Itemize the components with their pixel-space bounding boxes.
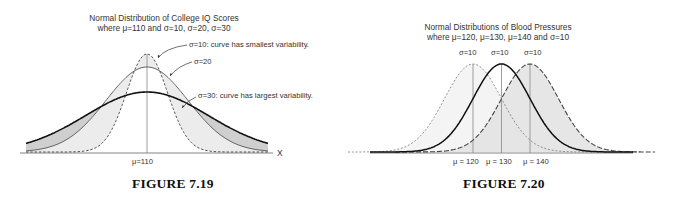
x-axis-label: X [277,148,283,158]
mean-tick-label-1: μ = 120 [453,157,479,166]
figure-7-20: Normal Distributions of Blood Pressures … [340,0,675,203]
annotation-sigma-10: σ=10: curve has smallest variability. [189,40,309,49]
figure-7-19: Normal Distribution of College IQ Scores… [0,0,340,203]
figure-caption: FIGURE 7.19 [132,176,214,192]
iq-distribution-plot [0,0,340,203]
mean-tick-label-3: μ = 140 [523,157,549,166]
mean-tick-label: μ=110 [132,157,153,166]
blood-pressure-plot [340,0,675,203]
annotation-sigma-20: σ=20 [194,57,212,66]
figure-caption: FIGURE 7.20 [463,176,545,192]
annotation-sigma-30: σ=30: curve has largest variability. [198,91,313,100]
mean-tick-label-2: μ = 130 [486,157,512,166]
